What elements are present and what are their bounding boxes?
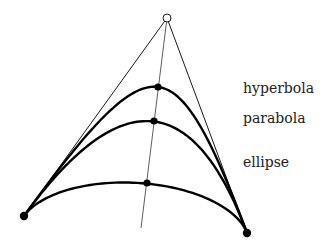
control-point <box>163 14 171 22</box>
start-endpoint <box>20 212 28 220</box>
parabola-shoulder-point <box>150 117 157 124</box>
parabola-curve <box>24 121 247 233</box>
end-endpoint <box>243 229 251 237</box>
hyperbola-curve <box>24 87 247 233</box>
hyperbola-label: hyperbola <box>243 81 314 95</box>
parabola-label: parabola <box>243 111 306 125</box>
hyperbola-shoulder-point <box>154 83 161 90</box>
ellipse-curve <box>24 183 247 234</box>
ellipse-label: ellipse <box>243 155 289 169</box>
ellipse-shoulder-point <box>143 179 150 186</box>
